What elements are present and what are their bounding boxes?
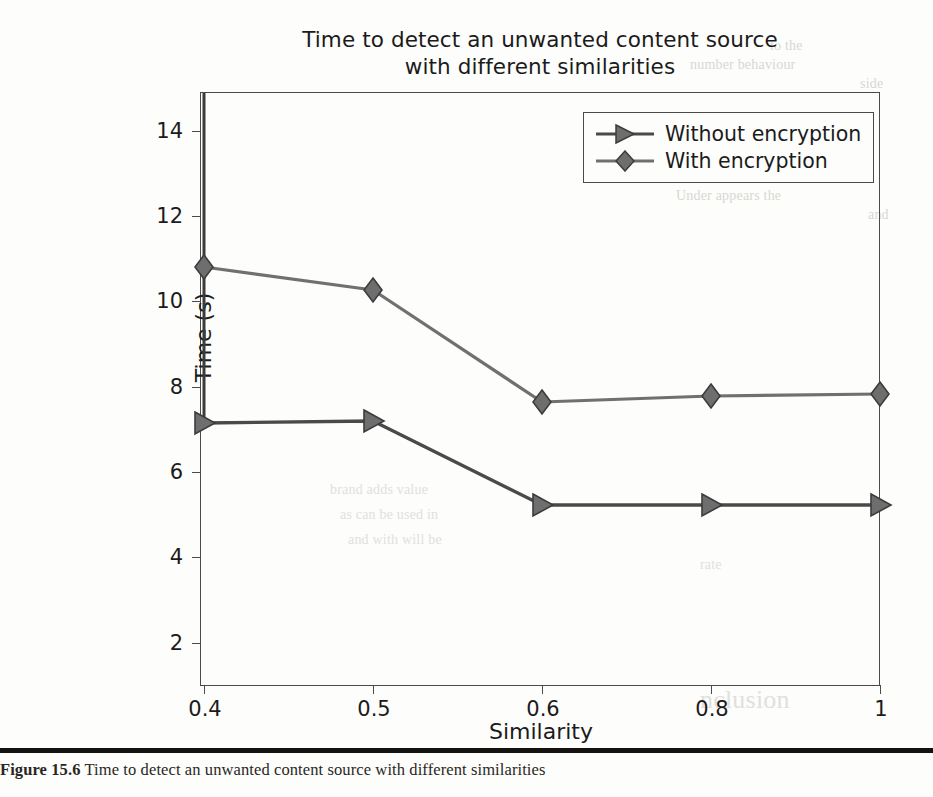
x-tick-label-4: 1 xyxy=(841,697,921,721)
y-tick-10: 10 xyxy=(192,301,201,302)
legend-label-without-encryption: Without encryption xyxy=(665,122,861,146)
chart-legend: Without encryption With encryption xyxy=(583,112,874,183)
legend-entry-with-encryption: With encryption xyxy=(594,147,861,174)
data-point-without-encryption-3 xyxy=(702,494,722,516)
x-tick-label-1: 0.5 xyxy=(334,697,414,721)
data-point-without-encryption-1 xyxy=(364,410,384,432)
y-tick-label-8: 8 xyxy=(170,375,183,399)
data-point-with-encryption-1 xyxy=(364,278,382,302)
data-point-with-encryption-2 xyxy=(533,390,551,414)
legend-marker-diamond-icon xyxy=(594,150,656,172)
chart-title-line-1: Time to detect an unwanted content sourc… xyxy=(302,27,778,52)
figure-caption: Figure 15.6 Time to detect an unwanted c… xyxy=(0,760,933,780)
x-axis-label: Similarity xyxy=(201,719,881,744)
y-tick-2: 2 xyxy=(192,643,201,644)
x-tick-label-3: 0.8 xyxy=(672,697,752,721)
data-point-without-encryption-2 xyxy=(533,494,553,516)
legend-entry-without-encryption: Without encryption xyxy=(594,120,861,147)
y-tick-label-10: 10 xyxy=(156,289,183,313)
y-tick-label-4: 4 xyxy=(170,545,183,569)
series-without-encryption xyxy=(195,410,891,516)
plot-area: Time (s) 14 12 10 8 6 4 2 0.4 0.5 xyxy=(200,92,880,686)
data-point-without-encryption-4 xyxy=(871,494,891,516)
figure-caption-text: Time to detect an unwanted content sourc… xyxy=(84,760,545,779)
y-tick-label-2: 2 xyxy=(170,631,183,655)
figure-caption-number: Figure 15.6 xyxy=(0,760,81,779)
y-tick-label-14: 14 xyxy=(156,119,183,143)
y-tick-14: 14 xyxy=(192,131,201,132)
y-tick-6: 6 xyxy=(192,472,201,473)
chart-figure: Time to detect an unwanted content sourc… xyxy=(0,0,933,740)
data-point-with-encryption-4 xyxy=(871,382,889,406)
y-tick-4: 4 xyxy=(192,557,201,558)
chart-title-line-2: with different similarities xyxy=(200,53,880,80)
data-point-with-encryption-3 xyxy=(702,384,720,408)
chart-title: Time to detect an unwanted content sourc… xyxy=(200,26,880,80)
legend-marker-triangle-icon xyxy=(594,123,656,145)
y-tick-label-12: 12 xyxy=(156,204,183,228)
y-tick-label-6: 6 xyxy=(170,460,183,484)
series-with-encryption xyxy=(195,255,889,414)
y-tick-8: 8 xyxy=(192,387,201,388)
page-horizontal-rule xyxy=(0,748,933,753)
y-tick-12: 12 xyxy=(192,216,201,217)
x-tick-label-0: 0.4 xyxy=(165,697,245,721)
legend-label-with-encryption: With encryption xyxy=(665,149,828,173)
x-tick-label-2: 0.6 xyxy=(503,697,583,721)
